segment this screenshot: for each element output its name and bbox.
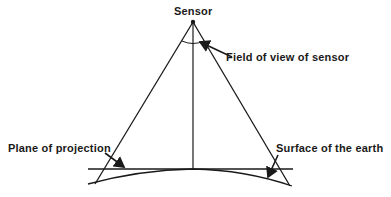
surface-of-earth-label: Surface of the earth bbox=[276, 142, 383, 154]
sensor-label: Sensor bbox=[174, 5, 213, 17]
sensor-projection-diagram: Sensor Field of view of sensor Plane of … bbox=[0, 0, 391, 197]
diagram-canvas bbox=[0, 0, 391, 197]
plane-arrow bbox=[105, 153, 124, 167]
fov-left-edge bbox=[95, 22, 193, 184]
plane-of-projection-label: Plane of projection bbox=[8, 142, 111, 154]
earth-surface-curve bbox=[88, 169, 292, 186]
field-of-view-label: Field of view of sensor bbox=[226, 51, 349, 63]
